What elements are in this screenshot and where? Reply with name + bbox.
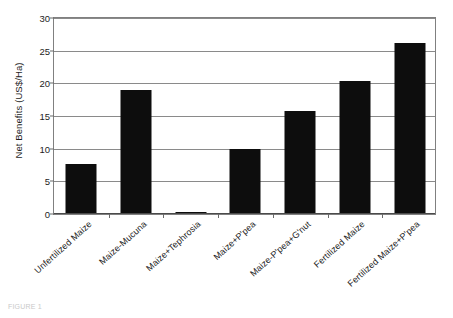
bar-slot (328, 18, 383, 214)
bar[interactable] (285, 111, 316, 214)
x-tick-mark (273, 214, 274, 218)
x-tick-mark (382, 214, 383, 218)
x-axis-labels: Unfertilized MaizeMaize-MucunaMaize+Teph… (53, 219, 436, 299)
x-axis-label: Maize+Tephrosia (144, 219, 203, 273)
y-tick-label: 20 (39, 78, 50, 89)
x-axis-label: Maize+P'pea (212, 219, 258, 262)
x-axis-baseline (54, 213, 435, 214)
x-axis-label: Fertilized Maize (312, 219, 367, 270)
bar-chart-figure: Net Benefits (US$/Ha) 302520151050 Unfer… (0, 0, 453, 318)
bar-slot (382, 18, 437, 214)
x-axis-label: Unfertilized Maize (32, 219, 93, 275)
bar[interactable] (121, 90, 152, 214)
bar[interactable] (230, 149, 261, 214)
figure-caption: FIGURE 1 (8, 303, 42, 310)
y-tick-label: 30 (39, 13, 50, 24)
y-tick-label: 25 (39, 45, 50, 56)
y-tick-label: 15 (39, 111, 50, 122)
x-tick-mark (218, 214, 219, 218)
bar-series (54, 18, 435, 214)
x-tick-mark (163, 214, 164, 218)
x-axis-label: Maize-Mucuna (97, 219, 148, 267)
bar-slot (54, 18, 109, 214)
bar-slot (109, 18, 164, 214)
bar-slot (163, 18, 218, 214)
plot-area: 302520151050 (53, 17, 436, 215)
bar[interactable] (394, 43, 425, 214)
x-tick-mark (328, 214, 329, 218)
y-tick-label: 10 (39, 143, 50, 154)
y-axis-title: Net Benefits (US$/Ha) (13, 31, 24, 191)
bar-slot (218, 18, 273, 214)
x-tick-mark (109, 214, 110, 218)
bar-slot (273, 18, 328, 214)
bar[interactable] (66, 164, 97, 214)
bar[interactable] (339, 81, 370, 214)
x-axis-label: Maize-P'pea+G'nut (248, 219, 313, 279)
